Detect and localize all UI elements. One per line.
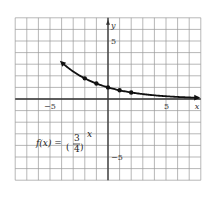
exponent: x <box>87 129 92 139</box>
function-label: f(x) = ( 3 4 ) x <box>35 129 92 154</box>
data-point <box>83 76 87 80</box>
x-tick-neg5: −5 <box>44 102 56 111</box>
data-point <box>106 85 110 89</box>
data-point <box>94 81 98 85</box>
y-tick-neg5: −5 <box>111 153 123 162</box>
function-lhs: f(x) = <box>35 138 62 148</box>
function-graph: y x −5 5 5 −5 f(x) = ( 3 4 ) x <box>0 0 210 197</box>
y-axis-label: y <box>110 21 116 30</box>
data-point <box>129 90 133 94</box>
exponential-curve <box>60 61 200 101</box>
y-axis-arrow-icon <box>106 20 110 25</box>
axes: y x −5 5 5 −5 <box>15 18 201 180</box>
right-paren: ) <box>80 142 84 152</box>
data-point <box>117 88 121 92</box>
y-tick-5: 5 <box>111 37 116 46</box>
left-paren: ( <box>66 142 70 152</box>
x-tick-5: 5 <box>164 102 169 111</box>
x-axis-label: x <box>195 102 200 111</box>
